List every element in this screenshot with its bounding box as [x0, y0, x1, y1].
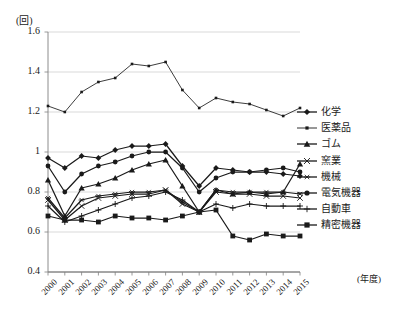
legend-label: 電気機器: [321, 188, 361, 198]
y-tick-label: 1.6: [12, 25, 40, 36]
legend-item-1: 医薬品: [296, 120, 361, 136]
legend-marker-diamond-icon: [296, 106, 318, 118]
legend-marker-square-icon: [296, 122, 318, 134]
legend-item-7: 精密機器: [296, 217, 361, 233]
y-tick-label: 1.2: [12, 105, 40, 116]
series-0: [45, 141, 303, 189]
y-tick-label: 0.8: [12, 185, 40, 196]
legend-item-2: ゴム: [296, 136, 361, 152]
legend-marker-square-icon: [296, 219, 318, 231]
legend-label: 化学: [321, 107, 341, 117]
legend-label: ゴム: [321, 139, 341, 149]
legend-item-6: 自動車: [296, 201, 361, 217]
series-1: [47, 61, 302, 118]
y-tick-label: 1.4: [12, 65, 40, 76]
legend-marker-circle-icon: [296, 187, 318, 199]
legend-item-3: 窯業: [296, 153, 361, 169]
legend-label: 機械: [321, 172, 341, 182]
legend-item-0: 化学: [296, 104, 361, 120]
series-7: [46, 208, 303, 243]
series-2: [45, 157, 303, 219]
y-tick-label: 0.4: [12, 265, 40, 276]
chart-legend: 化学医薬品ゴム窯業機械電気機器自動車精密機器: [296, 104, 361, 234]
legend-marker-cross-icon: [296, 155, 318, 167]
legend-marker-plus-icon: [296, 203, 318, 215]
legend-label: 精密機器: [321, 220, 361, 230]
legend-label: 窯業: [321, 156, 341, 166]
legend-label: 医薬品: [321, 123, 351, 133]
legend-marker-star-icon: [296, 171, 318, 183]
legend-label: 自動車: [321, 204, 351, 214]
legend-item-4: 機械: [296, 169, 361, 185]
x-axis-unit-label: (年度): [357, 272, 381, 285]
chart-container: (回) (年度) 1.61.41.210.80.60.4 20002001200…: [0, 0, 401, 315]
legend-item-5: 電気機器: [296, 185, 361, 201]
y-tick-label: 1: [12, 145, 40, 156]
y-tick-label: 0.6: [12, 225, 40, 236]
legend-marker-triangle-icon: [296, 138, 318, 150]
